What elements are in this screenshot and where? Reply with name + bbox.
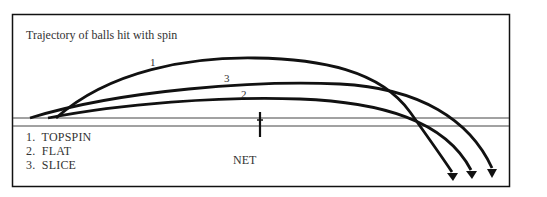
legend-label: TOPSPIN: [42, 130, 92, 144]
legend-num: 2.: [26, 144, 35, 158]
arrowhead-flat: [466, 171, 477, 179]
legend-item-flat: 2. FLAT: [26, 144, 91, 158]
legend-item-topspin: 1. TOPSPIN: [26, 130, 91, 144]
curve-label-2: 2: [241, 88, 247, 100]
legend-num: 1.: [26, 130, 35, 144]
arrowhead-topspin: [447, 173, 458, 181]
legend: 1. TOPSPIN 2. FLAT 3. SLICE: [26, 130, 91, 172]
diagram-title: Trajectory of balls hit with spin: [26, 28, 177, 43]
curve-label-1: 1: [150, 56, 156, 68]
trajectory-diagram: Trajectory of balls hit with spin 1 3 2 …: [0, 0, 547, 197]
legend-label: SLICE: [42, 158, 76, 172]
net-label: NET: [233, 153, 256, 168]
legend-item-slice: 3. SLICE: [26, 158, 91, 172]
arrowhead-slice: [487, 169, 497, 178]
legend-label: FLAT: [42, 144, 71, 158]
legend-num: 3.: [26, 158, 35, 172]
curve-label-3: 3: [224, 72, 230, 84]
